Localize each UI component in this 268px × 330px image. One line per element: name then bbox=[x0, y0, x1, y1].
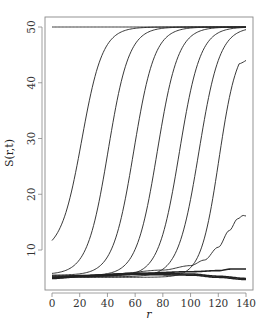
plot-frame bbox=[45, 17, 253, 290]
y-tick-label: 10 bbox=[25, 243, 37, 256]
x-axis: 020406080100120140 bbox=[49, 293, 256, 309]
x-tick-label: 140 bbox=[236, 297, 256, 309]
y-tick-label: 40 bbox=[25, 76, 37, 89]
line-chart: 020406080100120140 1020304050 r S(r,t) bbox=[0, 0, 268, 330]
x-tick-label: 0 bbox=[49, 297, 56, 309]
series-lines bbox=[52, 27, 246, 280]
x-axis-title: r bbox=[146, 308, 152, 321]
y-axis: 1020304050 bbox=[25, 20, 42, 256]
x-tick-label: 60 bbox=[128, 297, 141, 309]
x-tick-label: 20 bbox=[73, 297, 86, 309]
y-tick-label: 20 bbox=[25, 188, 37, 201]
y-axis-title: S(r,t) bbox=[3, 139, 16, 167]
series-line-t2 bbox=[52, 27, 246, 241]
y-tick-label: 50 bbox=[25, 20, 37, 33]
x-tick-label: 120 bbox=[208, 297, 228, 309]
series-line-t9 bbox=[52, 215, 246, 277]
x-tick-label: 100 bbox=[181, 297, 201, 309]
y-tick-label: 30 bbox=[25, 132, 37, 145]
series-line-t7 bbox=[52, 30, 246, 277]
series-line-t8 bbox=[52, 60, 246, 277]
x-tick-label: 80 bbox=[156, 297, 169, 309]
x-tick-label: 40 bbox=[101, 297, 114, 309]
